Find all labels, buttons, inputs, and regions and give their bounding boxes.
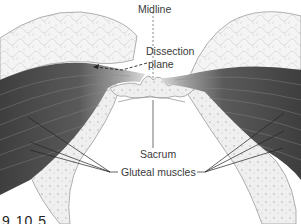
label-midline: Midline [138, 3, 171, 15]
label-sacrum: Sacrum [140, 148, 176, 160]
diagram-illustration [0, 0, 301, 224]
right-subcutaneous-fat [190, 12, 301, 75]
label-dissection-plane-1: Dissection [146, 45, 194, 57]
figure-caption: 9.10.5 [2, 213, 47, 224]
label-dissection-plane-2: plane [148, 58, 174, 70]
label-gluteal-muscles: Gluteal muscles [121, 166, 196, 178]
anatomical-diagram: Midline Dissection plane Sacrum Gluteal … [0, 0, 301, 224]
